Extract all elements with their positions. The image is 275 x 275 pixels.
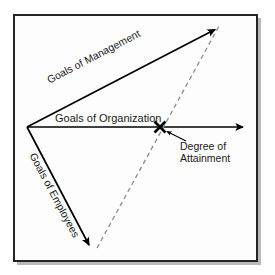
label-goals-of-organization: Goals of Organization xyxy=(55,112,161,124)
attainment-line-1: Degree of xyxy=(180,141,230,153)
label-degree-of-attainment: Degree of Attainment xyxy=(180,141,230,165)
attainment-line-2: Attainment xyxy=(180,153,230,165)
diagram-canvas xyxy=(0,0,275,275)
diagram-page: Goals of Management Goals of Organizatio… xyxy=(0,0,275,275)
vector-employees xyxy=(27,127,89,245)
